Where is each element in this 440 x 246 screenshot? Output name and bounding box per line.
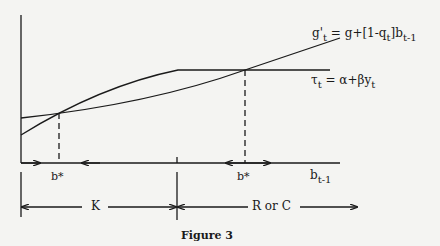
figure-caption: Figure 3: [181, 229, 233, 242]
g-prime-curve: [21, 38, 340, 118]
region-rc-label: R or C: [252, 199, 291, 213]
tau-curve: [21, 70, 330, 135]
b-star-label-2: b*: [237, 170, 250, 183]
g-prime-equation: g't = g+[1-qt]bt-1: [312, 26, 417, 43]
tau-equation: τt = α+βyt: [311, 73, 375, 90]
b-star-label-1: b*: [51, 170, 64, 183]
x-axis-label: bt-1: [310, 168, 331, 185]
region-k-label: K: [91, 199, 100, 213]
